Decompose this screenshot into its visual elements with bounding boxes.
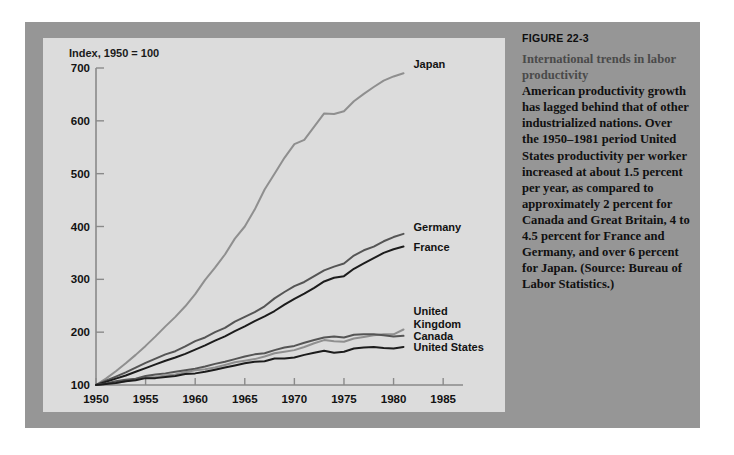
series-line-united-states xyxy=(96,347,403,385)
line-chart: Index, 1950 = 100 100200300400500600700 … xyxy=(43,38,505,412)
y-tick-label: 500 xyxy=(71,168,90,180)
y-axis-ticks: 100200300400500600700 xyxy=(71,62,104,391)
series-label-united-kingdom: UnitedKingdom xyxy=(413,305,461,330)
axis-lines xyxy=(96,68,463,385)
caption-body: American productivity growth has lagged … xyxy=(522,83,690,292)
x-tick-label: 1985 xyxy=(430,393,456,405)
x-tick-label: 1955 xyxy=(133,393,159,405)
chart-plate: Index, 1950 = 100 100200300400500600700 … xyxy=(43,38,505,412)
y-axis-title: Index, 1950 = 100 xyxy=(69,47,159,59)
y-tick-label: 300 xyxy=(71,273,90,285)
y-tick-label: 200 xyxy=(71,326,90,338)
y-tick-label: 100 xyxy=(71,379,90,391)
figure-caption: FIGURE 22-3 International trends in labo… xyxy=(522,32,690,292)
series-label-united-states: United States xyxy=(413,341,483,353)
x-tick-label: 1970 xyxy=(282,393,308,405)
figure-number: FIGURE 22-3 xyxy=(522,32,690,44)
x-tick-label: 1975 xyxy=(331,393,357,405)
x-tick-label: 1965 xyxy=(232,393,258,405)
x-tick-label: 1980 xyxy=(381,393,407,405)
y-tick-label: 600 xyxy=(71,115,90,127)
x-tick-label: 1960 xyxy=(182,393,208,405)
series-label-france: France xyxy=(413,241,449,253)
series-end-labels: JapanGermanyFranceUnitedKingdomCanadaUni… xyxy=(413,58,483,353)
figure-panel: Index, 1950 = 100 100200300400500600700 … xyxy=(25,22,700,428)
y-tick-label: 400 xyxy=(71,221,90,233)
x-tick-label: 1950 xyxy=(83,393,109,405)
series-paths xyxy=(96,73,403,385)
y-tick-label: 700 xyxy=(71,62,90,74)
caption-headline: International trends in labor productivi… xyxy=(522,51,690,83)
series-label-germany: Germany xyxy=(413,221,462,233)
series-label-japan: Japan xyxy=(413,58,445,70)
x-axis-ticks: 19501955196019651970197519801985 xyxy=(83,378,456,405)
